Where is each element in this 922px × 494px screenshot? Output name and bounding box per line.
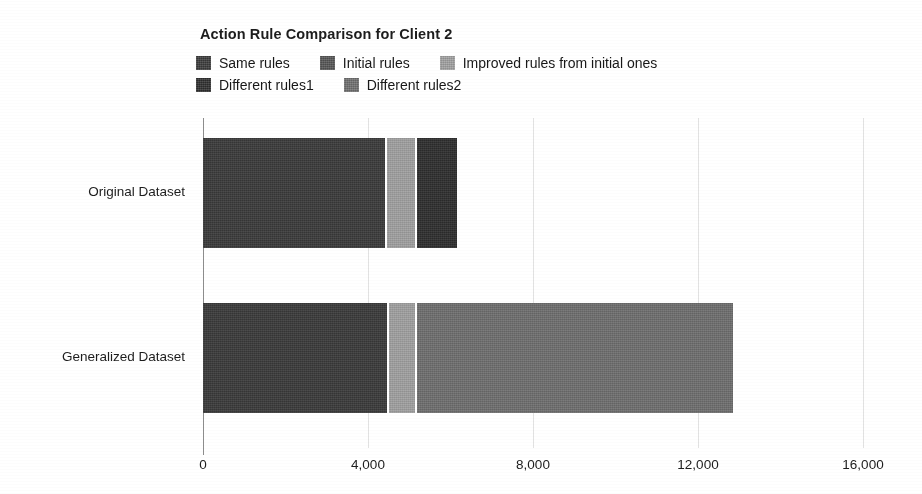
legend-item[interactable]: Initial rules [320, 55, 410, 71]
x-axis-tick-label: 8,000 [516, 457, 550, 472]
legend-item[interactable]: Different rules1 [196, 77, 314, 93]
bar-segment[interactable] [417, 138, 457, 248]
bar-generalized-dataset[interactable] [203, 303, 733, 413]
bar-segment[interactable] [387, 138, 416, 248]
legend-label: Initial rules [343, 55, 410, 71]
bar-segment[interactable] [417, 303, 732, 413]
legend-swatch-icon [344, 78, 359, 92]
gridline [863, 118, 864, 448]
bar-segment[interactable] [389, 303, 416, 413]
legend-swatch-icon [320, 56, 335, 70]
chart-figure: Action Rule Comparison for Client 2 Same… [0, 0, 922, 494]
x-axis-tick-label: 0 [199, 457, 207, 472]
legend-item[interactable]: Same rules [196, 55, 290, 71]
x-axis-tick-label: 4,000 [351, 457, 385, 472]
x-axis-tick-label: 16,000 [842, 457, 883, 472]
bar-original-dataset[interactable] [203, 138, 457, 248]
legend-item[interactable]: Improved rules from initial ones [440, 55, 658, 71]
legend-row: Different rules1Different rules2 [196, 74, 756, 96]
bar-segment[interactable] [203, 138, 385, 248]
category-label-generalized-dataset: Generalized Dataset [0, 349, 185, 364]
legend-swatch-icon [196, 56, 211, 70]
legend-row: Same rulesInitial rulesImproved rules fr… [196, 52, 756, 74]
x-axis-tick-label: 12,000 [677, 457, 718, 472]
legend-swatch-icon [440, 56, 455, 70]
chart-legend: Same rulesInitial rulesImproved rules fr… [196, 52, 756, 96]
bar-segment[interactable] [203, 303, 387, 413]
category-label-original-dataset: Original Dataset [0, 184, 185, 199]
legend-label: Different rules2 [367, 77, 462, 93]
legend-label: Different rules1 [219, 77, 314, 93]
x-axis-tick-mark [203, 448, 204, 455]
plot-area [203, 118, 863, 448]
chart-title: Action Rule Comparison for Client 2 [200, 26, 452, 42]
legend-item[interactable]: Different rules2 [344, 77, 462, 93]
legend-swatch-icon [196, 78, 211, 92]
legend-label: Improved rules from initial ones [463, 55, 658, 71]
legend-label: Same rules [219, 55, 290, 71]
